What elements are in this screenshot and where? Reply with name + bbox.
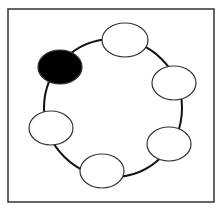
ring-diagram bbox=[0, 0, 222, 214]
node-bottom bbox=[80, 154, 124, 188]
node-right-upper bbox=[152, 66, 196, 100]
node-top bbox=[102, 23, 148, 57]
node-highlighted bbox=[38, 50, 82, 84]
node-right-lower bbox=[147, 127, 191, 161]
node-group bbox=[29, 23, 196, 188]
node-left bbox=[29, 111, 73, 145]
